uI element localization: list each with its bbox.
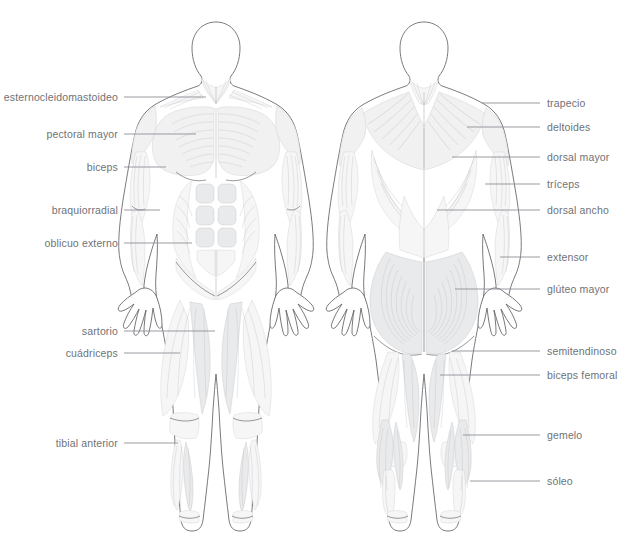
label-cuadriceps: cuádriceps	[0, 347, 118, 359]
label-extensor: extensor	[547, 251, 588, 263]
label-esternocleidomastoideo: esternocleidomastoideo	[0, 91, 118, 103]
label-biceps-femoral: biceps femoral	[547, 369, 617, 381]
label-tibial-anterior: tibial anterior	[0, 437, 118, 449]
label-triceps: tríceps	[547, 178, 580, 190]
label-pectoral-mayor: pectoral mayor	[0, 128, 118, 140]
label-biceps: biceps	[0, 161, 118, 173]
label-braquiorradial: braquiorradial	[0, 204, 118, 216]
anatomy-diagram: esternocleidomastoideopectoral mayorbice…	[0, 0, 622, 553]
label-dorsal-mayor: dorsal mayor	[547, 151, 610, 163]
figura-posterior	[326, 22, 521, 531]
label-gluteo-mayor: glúteo mayor	[547, 283, 610, 295]
label-trapecio: trapecio	[547, 97, 586, 109]
label-oblicuo-externo: oblicuo externo	[0, 237, 118, 249]
label-dorsal-ancho: dorsal ancho	[547, 204, 609, 216]
label-deltoides: deltoides	[547, 121, 590, 133]
label-semitendinoso: semitendinoso	[547, 345, 617, 357]
figures-svg	[0, 0, 622, 553]
label-gemelo: gemelo	[547, 429, 582, 441]
label-sartorio: sartorio	[0, 325, 118, 337]
figura-anterior	[118, 22, 313, 531]
label-soleo: sóleo	[547, 475, 573, 487]
